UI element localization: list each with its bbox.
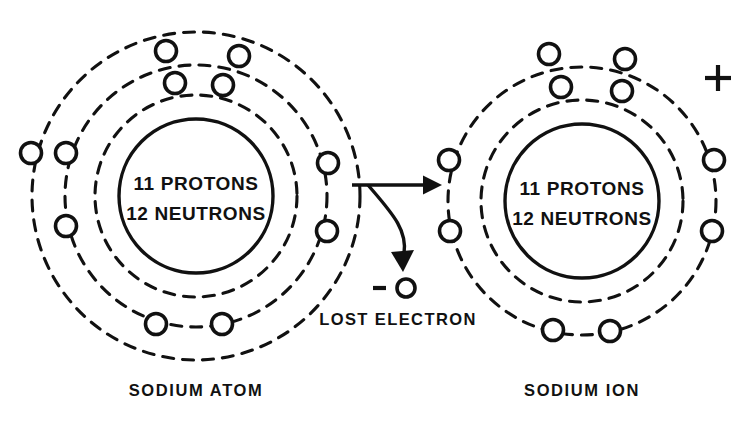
atom-nucleus-circle (119, 119, 273, 273)
electron (439, 150, 460, 171)
sodium-ion-group: 11 PROTONS 12 NEUTRONS SODIUM ION (439, 44, 732, 400)
electron (56, 143, 77, 164)
lost-electron-arrow-head (391, 250, 414, 272)
sodium-ion-caption: SODIUM ION (524, 381, 640, 399)
electron (156, 41, 177, 62)
ion-nucleus-protons-label: 11 PROTONS (520, 178, 645, 199)
electron (229, 46, 250, 67)
electron (146, 314, 167, 335)
electron (21, 143, 42, 164)
electron (56, 216, 77, 237)
electron (318, 153, 339, 174)
positive-charge-sign (705, 65, 731, 91)
electron (702, 221, 723, 242)
electron (317, 221, 338, 242)
ion-nucleus-neutrons-label: 12 NEUTRONS (512, 208, 652, 229)
lost-electron-icon (397, 279, 415, 297)
electron (704, 150, 725, 171)
sodium-atom-nucleus: 11 PROTONS 12 NEUTRONS (119, 119, 273, 273)
electron (615, 49, 636, 70)
electron (612, 81, 633, 102)
electron (543, 320, 564, 341)
sodium-atom-caption: SODIUM ATOM (129, 381, 264, 399)
electron (165, 73, 186, 94)
electron (213, 75, 234, 96)
transfer-arrow-head (423, 176, 442, 195)
sodium-atom-group: 11 PROTONS 12 NEUTRONS SODIUM ATOM (21, 32, 361, 399)
diagram-canvas: 11 PROTONS 12 NEUTRONS SODIUM ATOM LOST … (0, 0, 750, 425)
electron (212, 314, 233, 335)
sodium-ion-nucleus: 11 PROTONS 12 NEUTRONS (505, 124, 659, 278)
electron (551, 77, 572, 98)
lost-electron-group: LOST ELECTRON (319, 279, 477, 328)
lost-electron-label: LOST ELECTRON (319, 310, 477, 328)
atom-nucleus-protons-label: 11 PROTONS (134, 173, 259, 194)
electron (440, 221, 461, 242)
ion-nucleus-circle (505, 124, 659, 278)
atom-nucleus-neutrons-label: 12 NEUTRONS (126, 203, 266, 224)
electron-transfer-arrows (352, 176, 442, 273)
electron (600, 321, 621, 342)
sodium-ionization-diagram: 11 PROTONS 12 NEUTRONS SODIUM ATOM LOST … (0, 0, 750, 425)
lost-electron-arrow-shaft (368, 185, 405, 254)
electron (539, 44, 560, 65)
